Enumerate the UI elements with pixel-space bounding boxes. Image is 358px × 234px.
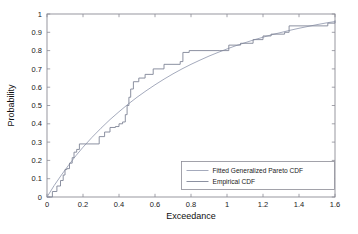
y-tick-label: 0.4 — [32, 119, 42, 128]
y-tick-label: 0.7 — [32, 65, 42, 74]
x-tick-label: 1.4 — [294, 200, 304, 209]
y-tick-label: 0 — [38, 193, 42, 202]
legend-box[interactable] — [182, 162, 335, 190]
chart-plot: 00.20.40.60.811.21.41.6 00.10.20.30.40.5… — [0, 0, 358, 234]
legend-label-1: Empirical CDF — [213, 178, 256, 186]
x-tick-label: 0.8 — [186, 200, 196, 209]
y-tick-labels: 00.10.20.30.40.50.60.70.80.91 — [32, 10, 42, 202]
y-tick-label: 0.8 — [32, 46, 42, 55]
x-tick-label: 1.2 — [258, 200, 268, 209]
x-tick-label: 0.6 — [150, 200, 160, 209]
x-axis-title-text: Exceedance — [166, 211, 216, 221]
x-tick-label: 0 — [45, 200, 49, 209]
figure-canvas: 00.20.40.60.811.21.41.6 00.10.20.30.40.5… — [0, 0, 358, 234]
x-axis-title: Exceedance — [166, 211, 216, 221]
y-tick-label: 0.6 — [32, 83, 42, 92]
y-tick-label: 0.5 — [32, 101, 42, 110]
x-tick-label: 1.6 — [330, 200, 340, 209]
y-tick-label: 0.2 — [32, 156, 42, 165]
legend-label-0: Fitted Generalized Pareto CDF — [213, 167, 304, 174]
x-tick-label: 0.2 — [78, 200, 88, 209]
y-tick-label: 0.9 — [32, 28, 42, 37]
y-tick-label: 0.1 — [32, 174, 42, 183]
x-tick-label: 1 — [225, 200, 229, 209]
y-tick-label: 1 — [38, 10, 42, 19]
y-axis-title: Probability — [6, 84, 16, 127]
x-tick-label: 0.4 — [114, 200, 124, 209]
x-tick-labels: 00.20.40.60.811.21.41.6 — [45, 200, 340, 209]
y-axis-title-text: Probability — [6, 84, 16, 127]
y-tick-label: 0.3 — [32, 138, 42, 147]
legend[interactable]: Fitted Generalized Pareto CDFEmpirical C… — [182, 162, 335, 190]
